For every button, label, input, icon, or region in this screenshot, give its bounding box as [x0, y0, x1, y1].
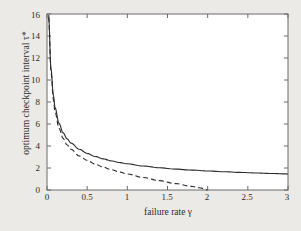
chart-figure: optimum checkpoint interval τ* failure r…	[0, 0, 301, 231]
plot-background	[47, 14, 288, 190]
plot-area	[0, 0, 301, 231]
